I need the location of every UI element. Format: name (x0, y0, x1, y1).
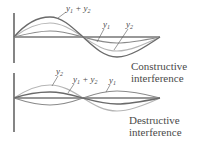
label-y1: y1 (108, 75, 116, 86)
leader-y2 (114, 29, 128, 50)
caption-line1: Constructive (131, 60, 187, 72)
label-y2: y2 (55, 66, 63, 77)
label-y2: y2 (125, 19, 133, 30)
constructive-caption: Constructive interference (131, 60, 187, 84)
leader-y1 (97, 29, 104, 42)
label-sum: y1 + y2 (72, 74, 98, 85)
leader-y2 (52, 76, 58, 86)
caption-line1: Destructive (129, 114, 182, 126)
label-y1: y1 (102, 19, 110, 30)
caption-line2: interference (131, 72, 187, 84)
constructive-panel: y1 + y2 y1 y2 (14, 3, 160, 63)
label-sum: y1 + y2 (65, 3, 91, 14)
leader-sum (58, 12, 66, 18)
caption-line2: interference (129, 126, 182, 138)
destructive-caption: Destructive interference (129, 114, 182, 138)
